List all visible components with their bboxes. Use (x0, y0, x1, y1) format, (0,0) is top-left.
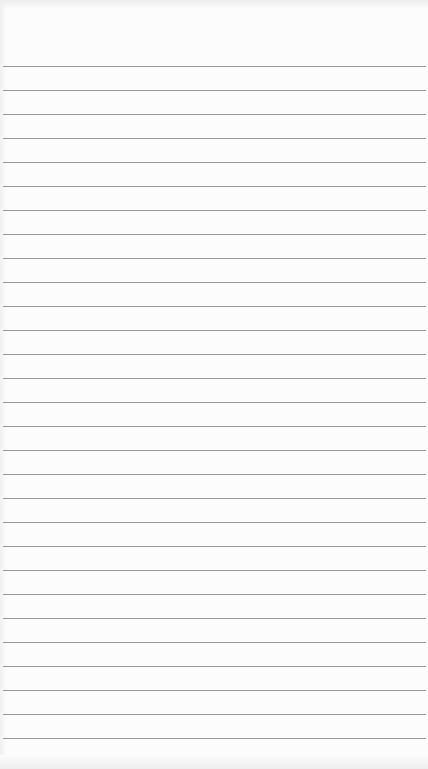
ruled-line (3, 474, 426, 475)
ruled-line (3, 330, 426, 331)
ruled-line (3, 690, 426, 691)
ruled-line (3, 642, 426, 643)
ruled-line (3, 714, 426, 715)
ruled-line (3, 666, 426, 667)
ruled-line (3, 210, 426, 211)
ruled-line (3, 282, 426, 283)
ruled-line (3, 378, 426, 379)
ruled-line (3, 498, 426, 499)
ruled-line (3, 138, 426, 139)
ruled-line (3, 426, 426, 427)
ruled-line (3, 594, 426, 595)
ruled-line (3, 306, 426, 307)
ruled-line (3, 450, 426, 451)
ruled-line (3, 522, 426, 523)
paper-top-edge (0, 0, 428, 8)
ruled-line (3, 114, 426, 115)
ruled-line (3, 618, 426, 619)
lined-paper-sheet (0, 0, 428, 769)
paper-bottom-edge (0, 755, 428, 769)
ruled-line (3, 354, 426, 355)
ruled-line (3, 402, 426, 403)
ruled-line (3, 546, 426, 547)
ruled-line (3, 66, 426, 67)
ruled-line (3, 738, 426, 739)
ruled-line (3, 258, 426, 259)
ruled-line (3, 186, 426, 187)
ruled-line (3, 90, 426, 91)
ruled-line (3, 162, 426, 163)
ruled-line (3, 234, 426, 235)
ruled-line (3, 570, 426, 571)
paper-left-edge (0, 0, 6, 769)
